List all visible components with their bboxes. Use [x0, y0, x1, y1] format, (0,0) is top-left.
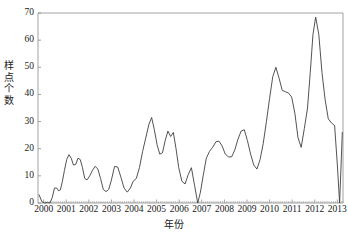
y-tick-label-30: 30	[12, 116, 34, 126]
y-tick-label-50: 50	[12, 61, 34, 71]
x-tick-label-2013: 2013	[324, 204, 348, 214]
y-tick-label-20: 20	[12, 143, 34, 153]
y-tick-label-40: 40	[12, 88, 34, 98]
x-axis-title: 年份	[0, 216, 348, 231]
y-tick-label-70: 70	[12, 7, 34, 17]
y-axis-title-char-2: 点	[2, 72, 16, 84]
y-tick-label-60: 60	[12, 34, 34, 44]
chart-background	[0, 0, 348, 234]
chart-figure: 样 点 个 数 年份 010203040506070 2000200120022…	[0, 0, 348, 234]
line-chart-canvas	[0, 0, 348, 234]
y-tick-label-10: 10	[12, 170, 34, 180]
